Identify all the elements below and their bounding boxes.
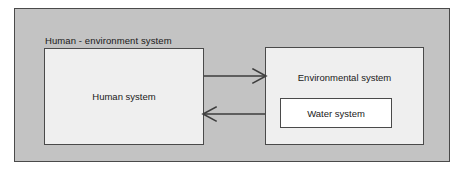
- diagram-canvas: Human - environment system Human system …: [0, 0, 467, 172]
- human-environment-system-label: Human - environment system: [45, 35, 172, 46]
- human-system-label: Human system: [45, 91, 203, 102]
- water-system-label: Water system: [281, 108, 391, 119]
- human-system-box: Human system: [44, 48, 204, 145]
- environmental-system-label: Environmental system: [266, 72, 423, 83]
- water-system-box: Water system: [280, 98, 392, 128]
- environmental-system-box: Environmental system Water system: [265, 47, 424, 145]
